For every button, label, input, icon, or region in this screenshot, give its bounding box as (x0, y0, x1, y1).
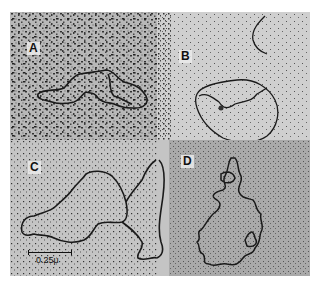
scale-bar-line (28, 252, 72, 253)
panel-a-micrograph (10, 12, 157, 140)
panel-label-d: D (181, 155, 194, 168)
panel-label-a: A (27, 42, 40, 55)
panel-d: D (157, 140, 310, 276)
scale-bar: 0.25μ (28, 248, 76, 268)
panel-c: C 0.25μ (10, 140, 157, 276)
scale-bar-label: 0.25μ (36, 255, 59, 265)
panel-a: A (10, 12, 157, 140)
panel-d-micrograph (157, 140, 310, 276)
scale-bar-tick-left (28, 250, 29, 255)
panel-label-b: B (179, 50, 192, 63)
panel-label-c: C (28, 161, 41, 174)
micrograph-figure: A B (10, 12, 310, 276)
scale-bar-tick-right (71, 250, 72, 255)
panel-b-micrograph (157, 12, 310, 140)
panel-b: B (157, 12, 310, 140)
